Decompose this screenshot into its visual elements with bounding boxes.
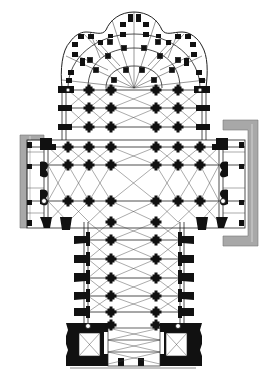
west-front	[66, 320, 202, 369]
choir	[58, 85, 210, 141]
cathedral-floor-plan	[0, 0, 273, 377]
chevet	[61, 12, 207, 88]
transept	[20, 120, 258, 246]
nave	[74, 217, 194, 326]
